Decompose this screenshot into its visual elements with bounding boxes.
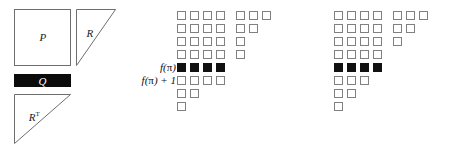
grid-cell	[347, 37, 356, 46]
grid-cell	[334, 37, 343, 46]
grid-cell	[347, 89, 356, 98]
grid-cell	[393, 11, 402, 20]
grid-cell	[360, 24, 369, 33]
figure-canvas: PRQRT f(π)f(π) + 1	[0, 0, 457, 155]
young-diagram-right	[0, 0, 457, 155]
grid-cell	[360, 11, 369, 20]
grid-cell	[373, 24, 382, 33]
grid-cell	[347, 76, 356, 85]
grid-cell	[373, 37, 382, 46]
grid-cell	[360, 63, 369, 72]
grid-cell	[347, 50, 356, 59]
grid-cell	[334, 11, 343, 20]
grid-cell	[334, 102, 343, 111]
grid-cell	[360, 37, 369, 46]
grid-cell	[334, 50, 343, 59]
grid-cell	[406, 11, 415, 20]
grid-cell	[406, 24, 415, 33]
grid-cell	[373, 63, 382, 72]
grid-cell	[419, 11, 428, 20]
grid-cell	[334, 63, 343, 72]
grid-cell	[393, 24, 402, 33]
grid-cell	[373, 50, 382, 59]
grid-cell	[334, 76, 343, 85]
grid-cell	[373, 11, 382, 20]
grid-cell	[347, 63, 356, 72]
grid-cell	[347, 11, 356, 20]
grid-cell	[360, 50, 369, 59]
grid-cell	[334, 89, 343, 98]
grid-cell	[347, 24, 356, 33]
grid-cell	[393, 37, 402, 46]
grid-cell	[360, 76, 369, 85]
grid-cell	[334, 24, 343, 33]
